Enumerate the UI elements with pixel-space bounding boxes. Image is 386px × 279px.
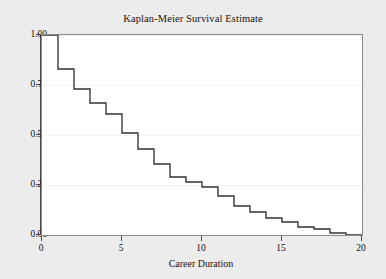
x-axis-title: Career Duration: [41, 258, 361, 269]
chart-figure: Kaplan-Meier Survival Estimate 0.000.250…: [0, 0, 386, 279]
survival-step-line: [42, 35, 362, 235]
x-tick-label-2: 10: [186, 243, 216, 253]
x-tick-mark-0: [41, 236, 42, 241]
survival-curve: [42, 35, 362, 235]
x-tick-mark-3: [281, 236, 282, 241]
plot-area: [41, 34, 363, 236]
x-tick-label-0: 0: [26, 243, 56, 253]
x-tick-label-3: 15: [266, 243, 296, 253]
x-tick-label-4: 20: [346, 243, 376, 253]
chart-title: Kaplan-Meier Survival Estimate: [0, 13, 386, 24]
x-tick-mark-2: [201, 236, 202, 241]
x-tick-label-1: 5: [106, 243, 136, 253]
plot-inner: [42, 35, 362, 235]
x-tick-mark-4: [361, 236, 362, 241]
x-tick-mark-1: [121, 236, 122, 241]
